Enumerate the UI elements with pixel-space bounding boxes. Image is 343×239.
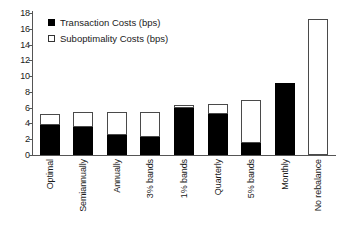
x-axis-label-text: No rebalance	[314, 159, 323, 211]
x-axis-label-1-bands: 1% bands	[167, 156, 201, 239]
bar-group	[308, 13, 328, 155]
bar-stack	[140, 112, 160, 155]
bar-group	[275, 13, 295, 155]
y-tick-label-10: 10	[6, 72, 30, 81]
bar-segment-suboptimality-costs	[73, 112, 93, 126]
bar-segment-suboptimality-costs	[140, 112, 160, 137]
y-tick-mark-10	[29, 76, 32, 77]
y-tick-label-4: 4	[6, 119, 30, 128]
y-tick-mark-8	[29, 92, 32, 93]
y-tick-mark-6	[29, 108, 32, 109]
x-axis-label-text: Optimal	[45, 159, 54, 189]
x-axis-label-text: Monthly	[280, 159, 289, 190]
bar-stack	[73, 112, 93, 155]
bar-stack	[107, 112, 127, 155]
bar-segment-transaction-costs	[174, 108, 194, 155]
bar-stack	[241, 100, 261, 155]
bar-stack	[275, 83, 295, 155]
bar-segment-transaction-costs	[73, 127, 93, 155]
open-square-icon	[48, 35, 55, 42]
bar-segment-transaction-costs	[208, 114, 228, 155]
x-axis-label-monthly: Monthly	[268, 156, 302, 239]
bar-segment-suboptimality-costs	[174, 105, 194, 108]
bar-stack	[174, 105, 194, 155]
bar-segment-suboptimality-costs	[40, 114, 60, 125]
x-axis-label-text: Quarterly	[213, 159, 222, 195]
y-tick-mark-12	[29, 60, 32, 61]
y-tick-mark-14	[29, 45, 32, 46]
x-axis-label-text: 5% bands	[247, 159, 256, 198]
bar-stack	[308, 19, 328, 155]
x-axis-label-annually: Annually	[100, 156, 134, 239]
x-axis-label-text: 1% bands	[179, 159, 188, 198]
bar-stack	[208, 104, 228, 155]
x-axis-label-text: 3% bands	[146, 159, 155, 198]
bar-segment-suboptimality-costs	[107, 112, 127, 136]
y-tick-mark-0	[29, 155, 32, 156]
bar-segment-transaction-costs	[241, 143, 261, 155]
x-axis-label-no-rebalance: No rebalance	[301, 156, 335, 239]
bar-segment-suboptimality-costs	[208, 104, 228, 114]
legend-label-suboptimality-costs: Suboptimality Costs (bps)	[60, 33, 168, 44]
y-tick-mark-16	[29, 29, 32, 30]
y-tick-mark-2	[29, 139, 32, 140]
legend-item-transaction-costs: Transaction Costs (bps)	[48, 15, 218, 29]
y-tick-mark-4	[29, 123, 32, 124]
bar-segment-suboptimality-costs	[308, 19, 328, 155]
y-tick-label-18: 18	[6, 9, 30, 18]
legend-label-transaction-costs: Transaction Costs (bps)	[60, 17, 161, 28]
x-axis-label-text: Annually	[112, 159, 121, 193]
bar-segment-transaction-costs	[275, 83, 295, 155]
x-axis-category-labels: OptimalSemiannuallyAnnually3% bands1% ba…	[33, 156, 335, 239]
y-tick-label-6: 6	[6, 104, 30, 113]
y-tick-label-14: 14	[6, 41, 30, 50]
y-tick-label-12: 12	[6, 56, 30, 65]
bar-segment-transaction-costs	[140, 137, 160, 155]
bar-segment-transaction-costs	[107, 135, 127, 155]
chart-legend: Transaction Costs (bps) Suboptimality Co…	[48, 15, 218, 47]
x-axis-label-quarterly: Quarterly	[201, 156, 235, 239]
filled-square-icon	[48, 19, 55, 26]
bar-stack	[40, 114, 60, 155]
bar-group	[241, 13, 261, 155]
x-axis-label-text: Semiannually	[79, 159, 88, 212]
x-axis-label-5-bands: 5% bands	[234, 156, 268, 239]
x-axis-label-optimal: Optimal	[33, 156, 67, 239]
x-axis-label-semiannually: Semiannually	[67, 156, 101, 239]
legend-item-suboptimality-costs: Suboptimality Costs (bps)	[48, 31, 218, 45]
bar-segment-transaction-costs	[40, 125, 60, 155]
x-axis-label-3-bands: 3% bands	[134, 156, 168, 239]
y-tick-label-2: 2	[6, 135, 30, 144]
y-tick-label-0: 0	[6, 151, 30, 160]
bar-chart: 18 16 14 12 10 8 6 4 2 0 OptimalSemiannu…	[0, 0, 343, 239]
y-tick-mark-18	[29, 13, 32, 14]
bar-segment-suboptimality-costs	[241, 100, 261, 143]
y-tick-label-16: 16	[6, 25, 30, 34]
y-axis-labels: 18 16 14 12 10 8 6 4 2 0	[0, 0, 30, 239]
y-tick-label-8: 8	[6, 88, 30, 97]
